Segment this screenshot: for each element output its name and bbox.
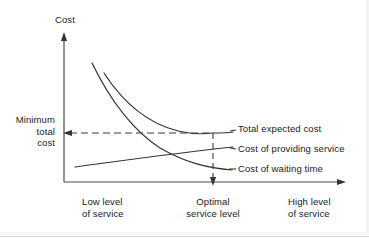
y-axis-arrow-icon (61, 32, 67, 41)
chart-container: Cost Minimum total cost Total expected c… (0, 0, 369, 239)
y-axis (61, 32, 67, 182)
x-axis-arrow-icon (337, 179, 346, 185)
x-axis-label-optimal-level: Optimal service level (158, 196, 268, 219)
x-axis-label-high-level: High level of service (288, 196, 331, 219)
curve-cost-of-providing-service (75, 147, 233, 167)
curve-total-expected-cost (104, 73, 233, 134)
series-label-cost-of-waiting-time: Cost of waiting time (238, 163, 323, 175)
minimum-total-cost-label: Minimum total cost (2, 114, 55, 149)
leader-total-expected-cost (230, 130, 236, 131)
series-label-cost-of-providing-service: Cost of providing service (238, 143, 345, 155)
leader-cost-of-providing-service (230, 148, 236, 149)
series-label-total-expected-cost: Total expected cost (238, 123, 321, 135)
y-axis-title: Cost (55, 14, 75, 26)
optimal-service-level-dashed-line (210, 133, 216, 186)
x-axis-label-low-level: Low level of service (82, 196, 124, 219)
x-axis (64, 179, 346, 185)
curve-cost-of-waiting-time (92, 63, 232, 170)
